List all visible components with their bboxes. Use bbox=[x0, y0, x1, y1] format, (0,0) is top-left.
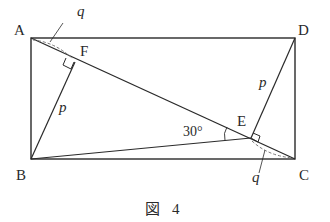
label-c: C bbox=[299, 167, 309, 183]
segment-be bbox=[31, 138, 251, 159]
label-p-de: p bbox=[258, 74, 267, 90]
segment-bf bbox=[31, 62, 75, 159]
dashed-arc-q-af bbox=[33, 40, 73, 59]
label-d: D bbox=[298, 22, 309, 38]
label-f: F bbox=[80, 43, 88, 59]
leader-q-ec bbox=[259, 150, 265, 173]
label-p-bf: p bbox=[58, 99, 67, 115]
leader-q-af bbox=[50, 23, 63, 42]
figure-caption-kanji: 図 bbox=[145, 201, 160, 217]
label-angle-30: 30° bbox=[183, 124, 203, 139]
label-b: B bbox=[16, 167, 26, 183]
label-q-ec: q bbox=[252, 169, 260, 185]
label-e: E bbox=[237, 113, 246, 129]
label-a: A bbox=[14, 22, 25, 38]
label-q-af: q bbox=[77, 3, 85, 19]
segment-de bbox=[251, 38, 295, 138]
angle-arc-30 bbox=[224, 127, 227, 141]
figure-caption-number: 4 bbox=[172, 201, 180, 217]
geometry-figure: A D B C F E q q p p 30° 図 4 bbox=[0, 0, 330, 222]
